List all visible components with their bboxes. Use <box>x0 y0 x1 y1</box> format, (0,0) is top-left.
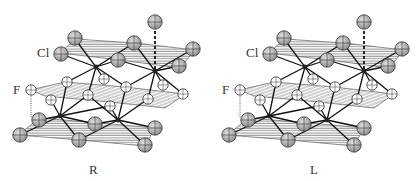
stereo-panel-l: Cl F L <box>209 0 418 181</box>
f-atom-label: F <box>13 82 20 98</box>
cl-atom-label: Cl <box>246 45 258 61</box>
cl-atom-label: Cl <box>37 45 49 61</box>
crystal-structure-r <box>0 0 209 181</box>
f-atom-label: F <box>222 82 229 98</box>
panel-caption-l: L <box>310 162 318 178</box>
panel-caption-r: R <box>89 162 98 178</box>
stereo-panel-r: Cl F R <box>0 0 209 181</box>
crystal-structure-l <box>209 0 418 181</box>
